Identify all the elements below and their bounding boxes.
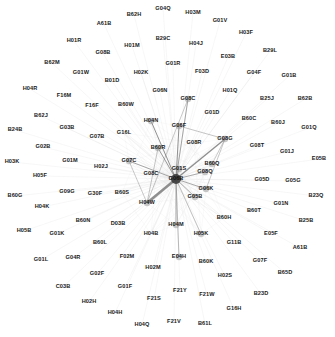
- node-label: C03B: [56, 284, 71, 290]
- node-label: E04H: [172, 254, 186, 260]
- node-label: F02M: [120, 254, 135, 260]
- node-label: H04J: [189, 41, 203, 47]
- node-label: G01J: [280, 149, 294, 155]
- node-label: F21W: [199, 292, 214, 298]
- node-label: D03B: [111, 221, 126, 227]
- node-label: G09G: [59, 189, 74, 195]
- node-label: G01Q: [301, 125, 316, 131]
- node-label: B01D: [105, 78, 120, 84]
- hub-node-label: G06B: [168, 176, 183, 182]
- node-label: B29C: [156, 36, 171, 42]
- graph-edge: [176, 179, 293, 181]
- node-label: H04B: [144, 231, 159, 237]
- node-label: G08B: [95, 50, 110, 56]
- node-label: B65D: [278, 270, 293, 276]
- node-label: G16H: [226, 306, 241, 312]
- node-label: H05F: [33, 173, 47, 179]
- node-label: B60W: [118, 102, 134, 108]
- node-label: G07B: [89, 134, 104, 140]
- node-label: G01F: [118, 284, 132, 290]
- graph-edge: [97, 179, 176, 274]
- node-label: B60C: [242, 116, 257, 122]
- graph-edge: [124, 133, 194, 143]
- node-label: G07C: [121, 158, 136, 164]
- node-label: G08G: [217, 136, 232, 142]
- node-label: G01V: [213, 18, 228, 24]
- node-label: B62H: [127, 12, 142, 18]
- node-label: G04R: [65, 255, 80, 261]
- node-label: G02B: [35, 144, 50, 150]
- node-label: G06F: [172, 123, 186, 129]
- node-label: A61B: [97, 21, 112, 27]
- node-label: H04H: [108, 310, 123, 316]
- node-label: F03D: [195, 69, 209, 75]
- node-label: B61L: [198, 321, 212, 327]
- node-label: H01R: [67, 38, 82, 44]
- node-label: F21Y: [173, 288, 187, 294]
- graph-edge: [176, 179, 300, 248]
- node-label: G04F: [247, 70, 261, 76]
- node-label: B23D: [254, 291, 269, 297]
- node-label: B60G: [7, 193, 22, 199]
- node-label: B62J: [34, 113, 48, 119]
- node-label: G06K: [198, 186, 213, 192]
- node-label: E03B: [221, 54, 235, 60]
- node-label: G01M: [62, 158, 78, 164]
- node-label: G08R: [186, 140, 201, 146]
- node-label: F21S: [147, 296, 161, 302]
- node-label: E05F: [264, 231, 278, 237]
- node-label: B60T: [247, 208, 261, 214]
- node-label: H02K: [134, 70, 149, 76]
- node-label: B60H: [217, 215, 232, 221]
- node-label: B60J: [271, 120, 285, 126]
- graph-edges: [0, 0, 335, 337]
- node-label: H02J: [94, 164, 108, 170]
- node-label: G08C: [180, 96, 195, 102]
- node-label: A61B: [293, 245, 308, 251]
- node-label: G16L: [117, 130, 131, 136]
- node-label: H04W: [139, 200, 155, 206]
- node-label: F16F: [85, 103, 98, 109]
- node-label: B25J: [260, 96, 274, 102]
- node-label: H02M: [145, 265, 160, 271]
- node-label: G08T: [250, 143, 264, 149]
- node-label: B24B: [8, 127, 23, 133]
- network-graph: G06BG04QB62HH03MA61BG01VH03FH01RB29CH04J…: [0, 0, 335, 337]
- node-label: H03M: [185, 10, 200, 16]
- node-label: G01S: [172, 166, 187, 172]
- node-label: F16M: [57, 93, 72, 99]
- node-label: G08C: [143, 171, 158, 177]
- node-label: B60K: [199, 259, 214, 265]
- node-label: B62M: [44, 60, 59, 66]
- node-label: H02H: [82, 299, 97, 305]
- node-label: G01D: [204, 110, 219, 116]
- node-label: G06N: [152, 88, 167, 94]
- node-label: G01R: [165, 61, 180, 67]
- node-label: G01N: [273, 201, 288, 207]
- node-label: B62B: [298, 96, 313, 102]
- node-label: H04M: [168, 222, 183, 228]
- node-label: H03F: [239, 30, 253, 36]
- node-label: G05B: [187, 194, 202, 200]
- node-label: H04R: [23, 86, 38, 92]
- node-label: H04K: [35, 204, 50, 210]
- node-label: H02S: [218, 273, 232, 279]
- node-label: G04Q: [155, 6, 170, 12]
- node-label: B60N: [76, 218, 91, 224]
- node-label: G05G: [285, 178, 300, 184]
- node-label: B60L: [93, 240, 107, 246]
- node-label: H04Q: [134, 322, 149, 328]
- node-label: H05K: [194, 231, 209, 237]
- node-label: E05B: [312, 156, 326, 162]
- node-label: B29L: [263, 48, 277, 54]
- node-label: G11B: [227, 240, 242, 246]
- node-label: H03K: [5, 159, 20, 165]
- graph-edge: [104, 24, 176, 179]
- node-label: B60R: [151, 145, 166, 151]
- node-label: G30F: [88, 191, 102, 197]
- node-label: G01L: [34, 257, 48, 263]
- node-label: B60S: [115, 190, 129, 196]
- node-label: G02F: [90, 271, 104, 277]
- node-label: H04N: [144, 118, 159, 124]
- node-label: H05B: [17, 228, 32, 234]
